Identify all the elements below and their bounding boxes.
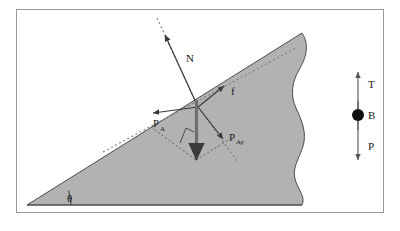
physics-diagram: θ N f P A P Ay T P B — [0, 0, 400, 231]
weight-perpendicular-subscript: Ay — [236, 138, 244, 146]
figure-canvas: θ N f P A P Ay T P B — [0, 0, 400, 231]
normal-force-label: N — [186, 52, 194, 64]
weight-label-freebody: P — [368, 140, 374, 152]
friction-force-label: f — [231, 85, 235, 97]
body-label: B — [368, 109, 375, 121]
weight-perpendicular-label: P — [229, 131, 235, 143]
weight-parallel-subscript: A — [160, 125, 165, 133]
body-dot — [352, 109, 364, 121]
angle-theta-label: θ — [67, 192, 72, 204]
weight-parallel-label: P — [153, 117, 159, 129]
tension-label: T — [368, 78, 375, 90]
